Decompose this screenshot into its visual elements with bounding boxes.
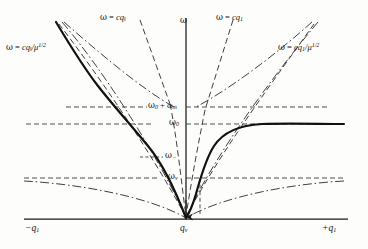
label-omega-eq-cq-parallel-left: ω = cq‖ [100, 13, 126, 22]
omega-axis-label: ω [180, 16, 187, 25]
polariton-curve-left [56, 22, 186, 218]
level-label-omega0-plus-omegam: ω0 + ωm [148, 101, 177, 110]
lower-branch-left [24, 181, 186, 218]
level-label-omega0: ω0 [169, 118, 179, 127]
light-line-right-outer [186, 24, 314, 217]
level-label-omega-v: ωv [168, 172, 178, 181]
label-omega-eq-cq1-right: ω = cq1 [216, 13, 243, 22]
light-line-left-outer [59, 24, 186, 217]
polariton-curve-right [186, 124, 344, 218]
label-omega-eq-cq-over-mu-left: ω = cq‖/μ1/2 [6, 42, 46, 52]
light-line-right-steep [205, 20, 233, 110]
light-line-left-steep [140, 20, 170, 104]
dispersion-figure: ω ω = cq‖ ω = cq1 ω = cq‖/μ1/2 ω = cq1/μ… [0, 0, 368, 249]
mu-line-left [62, 22, 186, 217]
figure-canvas [0, 0, 368, 249]
x-axis-label-center: qv [180, 224, 187, 234]
level-label-omega-minus: ω− [165, 151, 176, 160]
upper-branch-right [196, 22, 312, 107]
lower-branch-right [186, 181, 344, 218]
light-line-right-steep-lower [186, 110, 205, 217]
x-axis-label-right: +q1 [322, 224, 336, 234]
label-omega-eq-cq-over-mu-right: ω = cq1/μ1/2 [278, 42, 319, 52]
x-axis-label-left: −q1 [25, 224, 39, 234]
reference-lines-group [24, 107, 344, 178]
upper-branch-left [64, 22, 174, 107]
